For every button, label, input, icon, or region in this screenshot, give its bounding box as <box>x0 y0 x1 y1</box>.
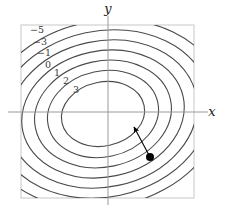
y-axis-label: y <box>103 1 112 16</box>
contour-plot-canvas: y x −5−3−10123 <box>0 0 225 212</box>
contour-label-0: 0 <box>45 59 51 70</box>
marked-point <box>146 153 154 161</box>
contour-label-3: 3 <box>73 84 79 95</box>
contour-label-neg5: −5 <box>30 24 44 35</box>
gradient-arrow <box>134 127 150 157</box>
contour-label-neg3: −3 <box>33 36 47 47</box>
contour-level-0 <box>10 35 197 192</box>
contour-level-labels: −5−3−10123 <box>30 24 79 95</box>
contour-label-2: 2 <box>63 75 69 86</box>
x-axis-label: x <box>208 104 216 119</box>
contour-plot-figure: y x −5−3−10123 <box>0 0 225 212</box>
contour-label-1: 1 <box>54 67 60 78</box>
contour-level-3 <box>55 74 150 154</box>
contour-label-neg1: −1 <box>37 47 51 58</box>
